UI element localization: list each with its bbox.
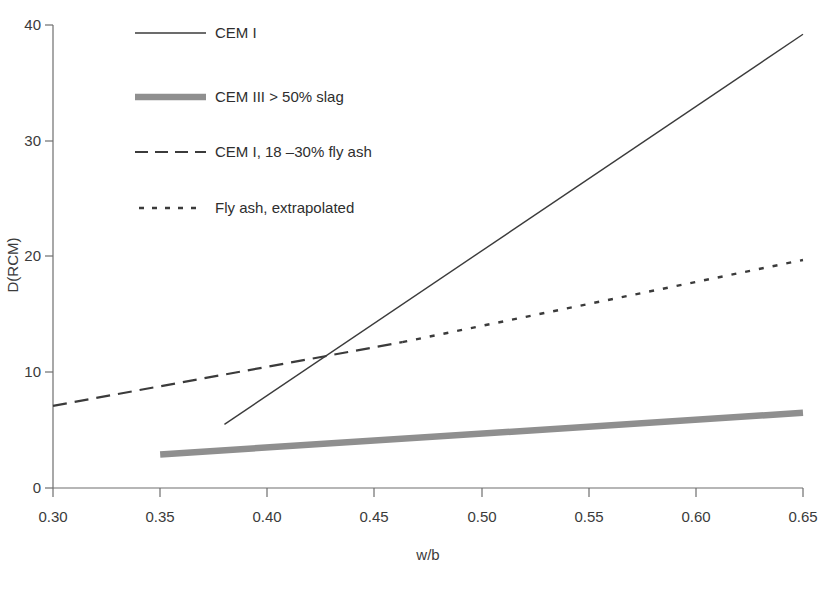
x-tick-label-045: 0.45 [359, 508, 388, 525]
y-tick-label-20: 20 [24, 247, 41, 264]
y-axis-title: D(RCM) [4, 238, 21, 293]
chart-container: 0 10 20 30 40 D(RCM) 0.30 0.35 0.40 0.45… [0, 0, 830, 593]
y-axis-ticks [45, 25, 53, 488]
y-axis-tick-labels: 0 10 20 30 40 [24, 16, 41, 496]
x-tick-label-065: 0.65 [788, 508, 817, 525]
x-tick-label-040: 0.40 [252, 508, 281, 525]
series-line-cem-iii-slag [160, 413, 803, 455]
series-line-cem-i-fly-ash [53, 342, 402, 406]
legend-label-cem-i-fly-ash: CEM I, 18 –30% fly ash [215, 143, 372, 160]
y-tick-label-0: 0 [33, 479, 41, 496]
legend-label-cem-iii-slag: CEM III > 50% slag [215, 88, 344, 105]
legend-label-fly-ash-extrapolated: Fly ash, extrapolated [215, 199, 354, 216]
y-tick-label-40: 40 [24, 16, 41, 33]
x-tick-label-060: 0.60 [681, 508, 710, 525]
x-tick-label-030: 0.30 [38, 508, 67, 525]
y-tick-label-10: 10 [24, 363, 41, 380]
x-axis-ticks [53, 488, 803, 497]
chart-canvas: 0 10 20 30 40 D(RCM) 0.30 0.35 0.40 0.45… [0, 0, 830, 593]
chart-legend: CEM I CEM III > 50% slag CEM I, 18 –30% … [135, 24, 372, 216]
x-tick-label-050: 0.50 [467, 508, 496, 525]
x-axis-title: w/b [415, 546, 439, 563]
series-line-fly-ash-extrapolated [402, 260, 803, 342]
legend-label-cem-i: CEM I [215, 24, 257, 41]
x-tick-label-055: 0.55 [574, 508, 603, 525]
x-axis-tick-labels: 0.30 0.35 0.40 0.45 0.50 0.55 0.60 0.65 [38, 508, 817, 525]
y-tick-label-30: 30 [24, 132, 41, 149]
x-tick-label-035: 0.35 [145, 508, 174, 525]
